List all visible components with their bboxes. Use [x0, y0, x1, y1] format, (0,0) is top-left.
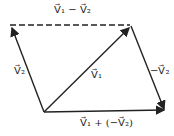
- label-v2: V⃗₂: [14, 66, 25, 76]
- label-neg-v2: −V⃗₂: [150, 66, 169, 76]
- vector-diagram: [0, 0, 174, 136]
- label-v1-minus-v2: V⃗₁ − V⃗₂: [54, 5, 91, 15]
- vector-sum: [44, 110, 164, 112]
- label-v1: V⃗₁: [91, 70, 102, 80]
- label-sum: V⃗₁ + (−V⃗₂): [80, 118, 133, 128]
- vector-v1: [44, 28, 129, 112]
